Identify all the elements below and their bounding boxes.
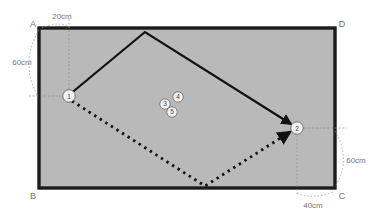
node-label: 2 bbox=[295, 125, 299, 132]
node-label: 3 bbox=[163, 100, 167, 107]
arc-40cm bbox=[297, 192, 333, 196]
dimension-label-20cm: 20cm bbox=[52, 12, 72, 21]
node-label: 5 bbox=[170, 108, 174, 115]
corner-label-a: A bbox=[30, 19, 36, 29]
dimension-label-left-60cm: 60cm bbox=[12, 58, 32, 67]
path-node-4[interactable]: 4 bbox=[173, 92, 183, 102]
node-label: 4 bbox=[176, 93, 180, 100]
dimension-label-right-60cm: 60cm bbox=[346, 156, 366, 165]
corner-label-d: D bbox=[339, 19, 346, 29]
dimension-label-40cm: 40cm bbox=[303, 201, 323, 210]
geometry-diagram: 1 2 3 4 5 A D B C 20cm 60cm 60cm 40cm bbox=[0, 0, 376, 222]
node-label: 1 bbox=[67, 93, 71, 100]
corner-label-c: C bbox=[339, 191, 346, 201]
path-node-2[interactable]: 2 bbox=[291, 122, 303, 134]
path-node-1[interactable]: 1 bbox=[63, 90, 75, 102]
diagram-canvas: 1 2 3 4 5 A D B C 20cm 60cm 60cm 40cm bbox=[0, 0, 376, 222]
path-node-5[interactable]: 5 bbox=[167, 107, 177, 117]
corner-label-b: B bbox=[30, 191, 36, 201]
